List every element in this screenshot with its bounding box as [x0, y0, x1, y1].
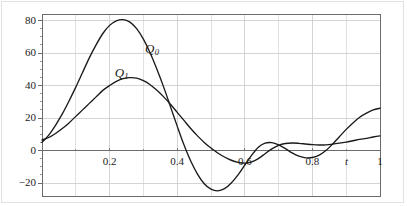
y-tick-label: 20 [25, 112, 36, 123]
chart-figure: 806040200−20 0.20.40.60.81 Q0Q1 t [0, 0, 407, 206]
x-tick-label: 0.6 [225, 156, 265, 167]
x-tick-label: 0.8 [292, 156, 332, 167]
axis-ticks [38, 14, 380, 196]
plot-canvas [0, 0, 407, 206]
y-tick-label: 40 [25, 80, 36, 91]
curve-label-subscript: 0 [155, 47, 159, 57]
curve-label-Q0: Q0 [145, 42, 159, 55]
grid-lines-vertical [76, 14, 346, 196]
y-tick-label: 80 [25, 15, 36, 26]
y-tick-label: 60 [25, 47, 36, 58]
x-tick-label: 1 [360, 156, 400, 167]
curve-label-base: Q [115, 65, 124, 80]
x-tick-label: 0.4 [157, 156, 197, 167]
y-tick-label: 0 [31, 145, 37, 156]
y-tick-label: −20 [19, 177, 36, 188]
curve-label-subscript: 1 [124, 71, 128, 81]
x-tick-label: 0.2 [90, 156, 130, 167]
curve-label-base: Q [145, 41, 154, 56]
curve-label-Q1: Q1 [115, 66, 129, 79]
x-axis-label: t [345, 156, 348, 167]
